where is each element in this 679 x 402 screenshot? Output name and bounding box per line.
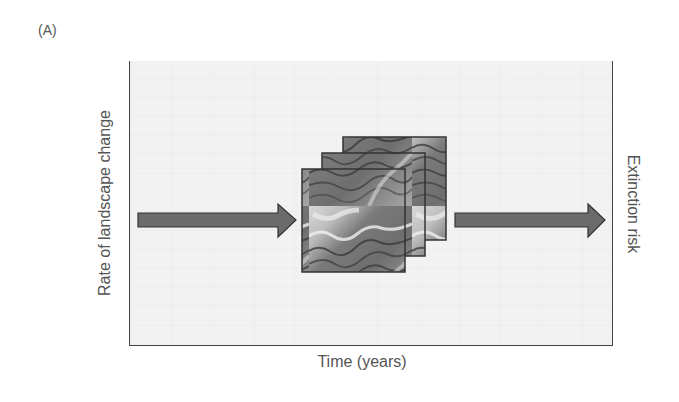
input-arrow (138, 204, 296, 237)
landscape-image-stack (302, 137, 446, 272)
output-arrow (455, 204, 605, 237)
landscape-image-front (302, 169, 405, 272)
arrow-right-icon (455, 204, 605, 237)
arrow-right-icon (138, 204, 296, 237)
